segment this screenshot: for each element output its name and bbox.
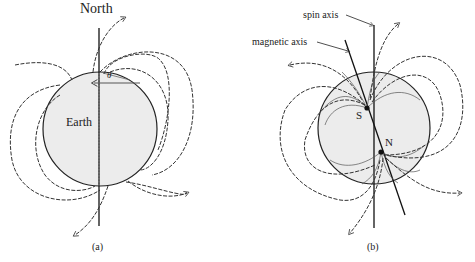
figure-canvas: θ North Earth (a) xyxy=(0,0,475,262)
field-line xyxy=(15,63,72,80)
north-pole-dot xyxy=(378,149,383,154)
caption-b: (b) xyxy=(367,241,379,253)
field-line-arrow xyxy=(75,186,108,235)
north-pole-label: N xyxy=(385,136,393,148)
field-line-arrow xyxy=(93,18,124,72)
panel-b: S N spin axis magnetic axis (b) xyxy=(252,9,463,253)
spin-axis-leader xyxy=(346,15,372,25)
spin-axis-label: spin axis xyxy=(303,9,338,20)
field-line xyxy=(126,182,186,194)
panel-a: θ North Earth (a) xyxy=(10,1,193,253)
earth-globe xyxy=(43,72,157,186)
angle-theta-label: θ xyxy=(107,70,112,80)
magnetic-axis-label: magnetic axis xyxy=(252,36,307,47)
magnetic-axis-leader xyxy=(317,42,348,51)
south-pole-label: S xyxy=(356,109,362,121)
earth-label: Earth xyxy=(66,115,92,129)
caption-a: (a) xyxy=(92,241,103,253)
north-label: North xyxy=(80,1,113,16)
south-pole-dot xyxy=(364,105,369,110)
